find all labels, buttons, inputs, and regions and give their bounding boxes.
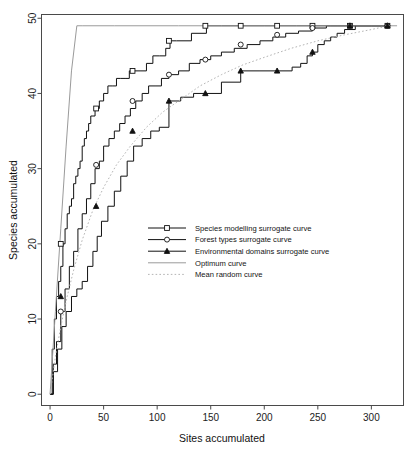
legend-label: Optimum curve — [195, 259, 246, 268]
plot-frame — [42, 15, 404, 406]
data-point-marker — [94, 106, 99, 111]
data-point-marker — [167, 38, 172, 43]
x-tick-label: 0 — [47, 412, 53, 423]
y-axis-title: Species accumulated — [7, 160, 19, 260]
y-tick-label: 50 — [27, 12, 38, 24]
chart-figure: 050100150200250300 01020304050 Species m… — [0, 0, 418, 452]
legend-label: Environmental domains surrogate curve — [195, 247, 329, 256]
x-axis-ticks: 050100150200250300 — [47, 406, 380, 423]
data-point-marker — [203, 23, 208, 28]
data-point-marker — [166, 72, 171, 77]
data-point-marker — [310, 26, 315, 31]
series-path-4 — [50, 26, 388, 394]
data-point-marker — [58, 241, 63, 246]
data-point-marker — [275, 23, 280, 28]
data-point-marker — [238, 23, 243, 28]
y-tick-label: 0 — [27, 391, 38, 397]
data-point-marker — [94, 162, 99, 167]
y-tick-label: 20 — [27, 238, 38, 250]
y-tick-label: 40 — [27, 87, 38, 99]
series-path-2 — [50, 26, 388, 394]
legend-label: Mean random curve — [195, 270, 263, 279]
data-point-marker — [130, 128, 135, 133]
chart-legend: Species modelling surrogate curveForest … — [148, 224, 329, 279]
species-accumulation-chart: 050100150200250300 01020304050 Species m… — [0, 0, 418, 452]
y-axis-ticks: 01020304050 — [27, 12, 41, 397]
legend-label: Species modelling surrogate curve — [195, 224, 312, 233]
series-path-1 — [50, 26, 388, 394]
legend-swatch-marker — [165, 237, 170, 242]
series-path-0 — [50, 26, 388, 394]
x-tick-label: 300 — [363, 412, 380, 423]
data-point-marker — [203, 57, 208, 62]
series-path-3 — [50, 26, 397, 394]
x-tick-label: 50 — [98, 412, 110, 423]
data-point-marker — [58, 309, 63, 314]
data-point-marker — [130, 98, 135, 103]
legend-swatch-marker — [165, 226, 170, 231]
x-tick-label: 200 — [256, 412, 273, 423]
x-tick-label: 250 — [309, 412, 326, 423]
data-point-marker — [275, 32, 280, 37]
series-layer — [50, 26, 397, 394]
data-point-marker — [93, 203, 98, 208]
x-tick-label: 100 — [149, 412, 166, 423]
y-tick-label: 10 — [27, 313, 38, 325]
legend-label: Forest types surrogate curve — [195, 235, 292, 244]
data-point-marker — [238, 42, 243, 47]
x-tick-label: 150 — [202, 412, 219, 423]
y-tick-label: 30 — [27, 163, 38, 175]
x-axis-title: Sites accumulated — [179, 432, 265, 444]
data-point-marker — [130, 68, 135, 73]
